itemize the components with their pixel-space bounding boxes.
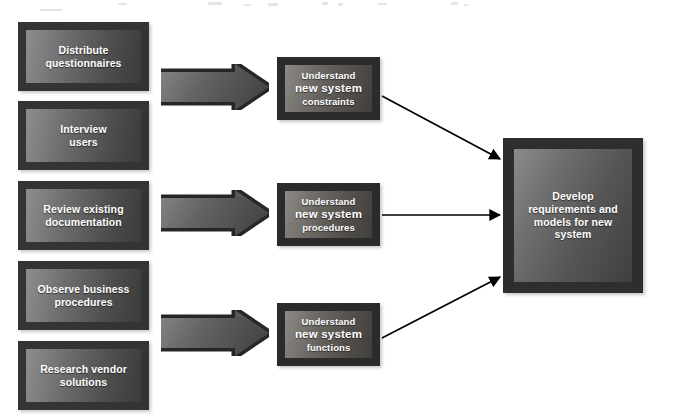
task-box-interview-users[interactable]: Interview users xyxy=(18,101,149,170)
task-line-1: Review existing xyxy=(43,203,123,215)
task-line-2: users xyxy=(69,136,98,148)
task-line-2: procedures xyxy=(54,296,112,308)
connector-constraints-to-goal xyxy=(382,96,500,159)
task-line-1: Distribute xyxy=(58,44,108,56)
task-box-observe-business-procedures[interactable]: Observe business procedures xyxy=(18,261,149,330)
task-line-1: Interview xyxy=(60,123,106,135)
goal-box-develop-requirements[interactable]: Develop requirements and models for new … xyxy=(503,138,643,293)
understand-line-1: Understand xyxy=(302,316,356,328)
connector-functions-to-goal xyxy=(382,277,500,338)
goal-line-4: system xyxy=(555,228,592,240)
understand-line-3: procedures xyxy=(302,222,355,234)
scan-artifact-noise xyxy=(0,0,675,14)
task-box-research-vendor-solutions[interactable]: Research vendor solutions xyxy=(18,341,149,410)
goal-line-3: models for new xyxy=(534,216,612,228)
task-box-label: Interview users xyxy=(26,109,141,162)
understand-line-2: new system xyxy=(295,81,362,95)
task-line-2: questionnaires xyxy=(45,57,121,69)
understand-line-3: functions xyxy=(307,342,351,354)
task-line-1: Observe business xyxy=(37,283,129,295)
task-box-label: Research vendor solutions xyxy=(26,349,141,402)
goal-line-2: requirements and xyxy=(528,203,618,215)
task-box-distribute-questionnaires[interactable]: Distribute questionnaires xyxy=(18,22,149,91)
task-line-1: Research vendor xyxy=(40,363,127,375)
task-box-label: Observe business procedures xyxy=(26,269,141,322)
understand-line-3: constraints xyxy=(302,96,354,108)
goal-line-1: Develop xyxy=(552,190,594,202)
understand-line-1: Understand xyxy=(302,196,356,208)
understand-box-constraints[interactable]: Understand new system constraints xyxy=(277,57,380,120)
understand-box-label: Understand new system procedures xyxy=(285,191,372,238)
block-arrow-constraints xyxy=(161,64,269,110)
diagram-canvas: Distribute questionnaires Interview user… xyxy=(0,0,675,420)
task-line-2: documentation xyxy=(45,216,122,228)
task-box-label: Review existing documentation xyxy=(26,189,141,242)
understand-box-functions[interactable]: Understand new system functions xyxy=(277,303,380,366)
understand-line-2: new system xyxy=(295,207,362,221)
task-line-2: solutions xyxy=(60,376,108,388)
understand-box-label: Understand new system functions xyxy=(285,311,372,358)
task-box-label: Distribute questionnaires xyxy=(26,30,141,83)
understand-line-1: Understand xyxy=(302,70,356,82)
block-arrow-procedures xyxy=(161,190,269,236)
task-box-review-existing-documentation[interactable]: Review existing documentation xyxy=(18,181,149,250)
understand-box-label: Understand new system constraints xyxy=(285,65,372,112)
understand-box-procedures[interactable]: Understand new system procedures xyxy=(277,183,380,246)
understand-line-2: new system xyxy=(295,327,362,341)
goal-box-label: Develop requirements and models for new … xyxy=(514,149,632,282)
block-arrow-functions xyxy=(161,310,269,356)
